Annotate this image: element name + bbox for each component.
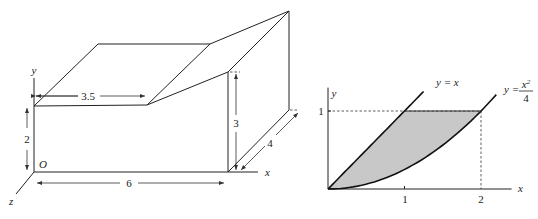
- shed-figure: 3.5 2 6 3 4 y x z O: [8, 11, 298, 207]
- dim-4-down-arrow: [241, 146, 265, 170]
- figure-canvas: 3.5 2 6 3 4 y x z O: [0, 0, 538, 219]
- label-y-equals-lhs: y =: [503, 83, 519, 95]
- dim-label-3-5: 3.5: [81, 90, 95, 102]
- front-slope-edge: [147, 72, 228, 105]
- x-tick-label-1: 1: [402, 193, 408, 205]
- roof-fold-edge: [147, 44, 210, 105]
- axis-label-z-3d: z: [8, 195, 14, 207]
- shaded-region: [328, 111, 481, 189]
- dim-label-4: 4: [267, 137, 273, 149]
- axis-label-x-3d: x: [264, 166, 270, 178]
- axis-label-y: y: [331, 87, 337, 99]
- dim-label-2: 2: [24, 133, 30, 145]
- roof-right-edge: [228, 11, 289, 72]
- y-tick-label-1: 1: [318, 105, 324, 117]
- label-fraction-numerator: x2: [521, 78, 531, 90]
- dim-4-up-arrow: [276, 113, 298, 135]
- label-fraction-denominator: 4: [523, 92, 529, 104]
- dim-label-6: 6: [126, 177, 132, 189]
- label-y-equals-x: y = x: [435, 76, 459, 88]
- axis-label-y-3d: y: [31, 64, 37, 76]
- origin-label: O: [39, 158, 47, 170]
- roof-back-slope-edge: [210, 11, 289, 44]
- x-tick-label-2: 2: [478, 193, 484, 205]
- z-axis-3d: [16, 172, 34, 194]
- dim-label-3: 3: [233, 117, 239, 129]
- axis-label-x: x: [517, 182, 523, 194]
- front-top-flat-edge: [34, 105, 147, 106]
- region-plot: y x 1 2 1 y = x y = x2 4: [318, 76, 533, 205]
